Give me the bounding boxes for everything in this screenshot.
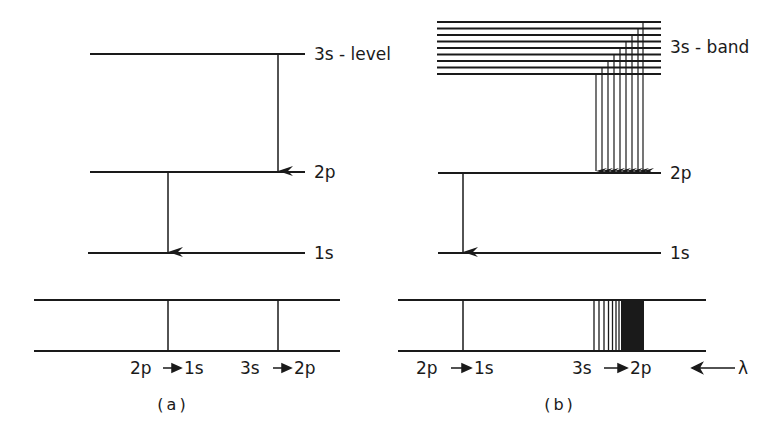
spectrum-label-from: 2p (416, 358, 438, 378)
level-3s-label: 3s - level (314, 44, 391, 64)
level-2p-label: 2p (670, 163, 692, 183)
arrow-right-icon (273, 364, 291, 372)
spectrum-label-from: 3s (572, 358, 592, 378)
energy-level-diagram: 3s - level 2p 1s 2p 1s 3s 2p (a) (0, 0, 784, 437)
wavelength-symbol: λ (738, 358, 748, 378)
level-2p-label: 2p (314, 162, 336, 182)
level-1s-label: 1s (670, 243, 690, 263)
spectrum-label-to: 2p (294, 358, 316, 378)
level-1s-label: 1s (314, 243, 334, 263)
band-transition-arrows (596, 22, 643, 171)
spectrum-label-to: 1s (474, 358, 494, 378)
spectrum-a (34, 300, 340, 351)
spectrum-b (398, 300, 706, 351)
caption-b: (b) (544, 395, 576, 414)
panel-a: 3s - level 2p 1s 2p 1s 3s 2p (a) (34, 44, 391, 414)
panel-b: 3s - band 2p 1s (398, 22, 749, 414)
spectrum-label-to: 1s (184, 358, 204, 378)
band-3s-label: 3s - band (670, 37, 749, 57)
wavelength-arrow-icon (692, 363, 735, 373)
band-3s (437, 22, 661, 74)
spectrum-label-from: 2p (130, 358, 152, 378)
arrow-right-icon (451, 364, 471, 372)
spectral-band-3s-2p (594, 300, 619, 351)
caption-a: (a) (157, 395, 188, 414)
arrow-right-icon (604, 364, 627, 372)
spectrum-label-from: 3s (240, 358, 260, 378)
arrow-right-icon (163, 364, 181, 372)
spectrum-label-to: 2p (630, 358, 652, 378)
